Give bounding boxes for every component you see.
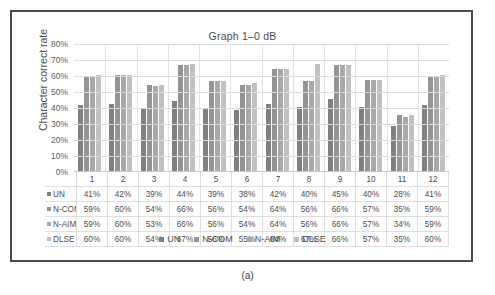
- bar-un-11: [391, 126, 396, 171]
- cell-un-9: 45%: [325, 187, 356, 202]
- cell-n-aim-4: 66%: [170, 217, 201, 232]
- series-swatch-icon: [47, 192, 51, 196]
- legend-label: DLSE: [302, 234, 326, 244]
- bar-n-aim-8: [309, 81, 314, 171]
- y-axis-ticks: 80%70%60%50%40%30%20%10%0%: [45, 44, 71, 172]
- category-divider: [355, 44, 356, 171]
- cell-n-aim-11: 34%: [387, 217, 418, 232]
- cell-n-aim-2: 60%: [108, 217, 139, 232]
- bar-n-aim-6: [246, 85, 251, 171]
- table-row: UN41%42%39%44%39%38%42%40%45%40%28%41%: [45, 187, 449, 202]
- cell-un-4: 44%: [170, 187, 201, 202]
- bar-dlse-8: [315, 64, 320, 171]
- plot-area: [74, 44, 449, 172]
- cell-un-3: 39%: [139, 187, 170, 202]
- category-divider: [230, 44, 231, 171]
- category-divider: [293, 44, 294, 171]
- legend-label: N-COM: [202, 234, 233, 244]
- category-divider: [105, 44, 106, 171]
- bar-n-com-10: [365, 80, 370, 171]
- table-header-row: 123456789101112: [45, 172, 449, 187]
- column-header-8: 8: [294, 172, 325, 187]
- bar-n-aim-5: [215, 81, 220, 171]
- chart-title: Graph 1–0 dB: [18, 30, 467, 42]
- category-divider: [387, 44, 388, 171]
- cell-n-aim-3: 53%: [139, 217, 170, 232]
- figure-caption: (a): [0, 270, 495, 281]
- bar-n-com-5: [209, 81, 214, 171]
- series-name: N-AIM: [53, 220, 76, 229]
- table-row: N-AIM59%60%53%66%56%54%64%56%66%57%34%59…: [45, 217, 449, 232]
- legend-item-n-aim[interactable]: N-AIM: [247, 234, 281, 244]
- cell-un-8: 40%: [294, 187, 325, 202]
- legend-swatch-icon: [194, 237, 199, 242]
- cell-n-aim-7: 64%: [263, 217, 294, 232]
- bar-dlse-3: [159, 85, 164, 171]
- plot-wrapper: 80%70%60%50%40%30%20%10%0%: [45, 44, 449, 172]
- bar-un-8: [297, 107, 302, 171]
- y-tick-label: 70%: [51, 55, 68, 65]
- column-header-5: 5: [201, 172, 232, 187]
- cell-un-6: 38%: [232, 187, 263, 202]
- cell-n-aim-5: 56%: [201, 217, 232, 232]
- bar-n-com-6: [240, 85, 245, 171]
- y-tick-label: 60%: [51, 71, 68, 81]
- column-header-12: 12: [418, 172, 449, 187]
- legend-item-dlse[interactable]: DLSE: [294, 234, 326, 244]
- legend-item-un[interactable]: UN: [159, 234, 180, 244]
- cell-un-12: 41%: [418, 187, 449, 202]
- cell-un-11: 28%: [387, 187, 418, 202]
- column-header-7: 7: [263, 172, 294, 187]
- bar-dlse-10: [377, 80, 382, 171]
- legend-swatch-icon: [159, 237, 164, 242]
- cell-n-com-11: 35%: [387, 202, 418, 217]
- cell-n-aim-6: 54%: [232, 217, 263, 232]
- column-header-11: 11: [387, 172, 418, 187]
- category-divider: [199, 44, 200, 171]
- cell-n-com-5: 56%: [201, 202, 232, 217]
- cell-un-10: 40%: [356, 187, 387, 202]
- legend-label: N-AIM: [255, 234, 281, 244]
- figure-frame: Graph 1–0 dB Character correct rate 80%7…: [10, 10, 473, 262]
- bar-n-com-3: [147, 85, 152, 171]
- figure-root: Graph 1–0 dB Character correct rate 80%7…: [0, 0, 495, 295]
- column-header-2: 2: [108, 172, 139, 187]
- table-row: N-COM59%60%54%66%56%54%64%56%66%57%35%59…: [45, 202, 449, 217]
- chart-legend: UNN-COMN-AIMDLSE: [18, 234, 467, 244]
- bar-dlse-6: [252, 83, 257, 171]
- category-divider: [168, 44, 169, 171]
- series-label-un: UN: [45, 187, 77, 202]
- cell-n-com-10: 57%: [356, 202, 387, 217]
- series-label-n-aim: N-AIM: [45, 217, 77, 232]
- bar-un-9: [328, 99, 333, 171]
- legend-item-n-com[interactable]: N-COM: [194, 234, 233, 244]
- column-header-9: 9: [325, 172, 356, 187]
- bar-un-4: [172, 101, 177, 171]
- legend-label: UN: [167, 234, 180, 244]
- cell-n-com-8: 56%: [294, 202, 325, 217]
- bar-un-2: [109, 104, 114, 171]
- cell-un-5: 39%: [201, 187, 232, 202]
- y-tick-label: 50%: [51, 87, 68, 97]
- column-header-6: 6: [232, 172, 263, 187]
- cell-n-aim-12: 59%: [418, 217, 449, 232]
- category-divider: [324, 44, 325, 171]
- bar-n-aim-3: [153, 86, 158, 171]
- series-swatch-icon: [47, 207, 51, 211]
- chart-card: Graph 1–0 dB Character correct rate 80%7…: [18, 16, 467, 258]
- bar-dlse-5: [221, 81, 226, 171]
- cell-n-com-1: 59%: [77, 202, 108, 217]
- cell-n-com-4: 66%: [170, 202, 201, 217]
- category-divider: [137, 44, 138, 171]
- legend-swatch-icon: [247, 237, 252, 242]
- cell-n-com-7: 64%: [263, 202, 294, 217]
- cell-n-com-9: 66%: [325, 202, 356, 217]
- bar-dlse-4: [190, 64, 195, 171]
- bar-un-1: [78, 105, 83, 171]
- cell-n-aim-9: 66%: [325, 217, 356, 232]
- category-divider: [418, 44, 419, 171]
- y-tick-label: 10%: [51, 151, 68, 161]
- bar-un-10: [359, 107, 364, 171]
- cell-n-aim-1: 59%: [77, 217, 108, 232]
- cell-n-com-12: 59%: [418, 202, 449, 217]
